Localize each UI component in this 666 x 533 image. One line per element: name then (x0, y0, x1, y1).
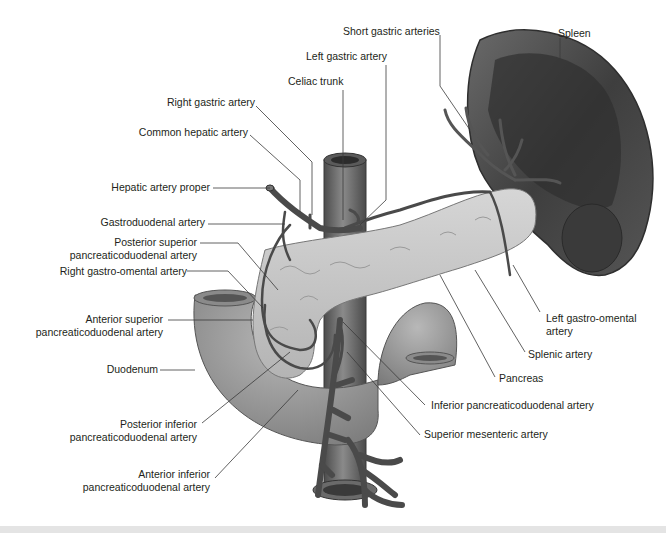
label-duodenum: Duodenum (107, 363, 158, 376)
label-posterior-inferior-pd-line2: pancreaticoduodenal artery (70, 431, 197, 444)
label-right-gastric-artery: Right gastric artery (167, 96, 255, 109)
label-hepatic-artery-proper: Hepatic artery proper (111, 181, 210, 194)
label-short-gastric-arteries: Short gastric arteries (343, 25, 440, 38)
label-anterior-superior-pd-line1: Anterior superior (85, 313, 163, 326)
label-celiac-trunk: Celiac trunk (288, 75, 343, 88)
label-left-gastro-omental-line2: artery (546, 325, 573, 338)
label-left-gastric-artery: Left gastric artery (306, 50, 387, 63)
label-common-hepatic-artery: Common hepatic artery (139, 126, 248, 139)
label-left-gastro-omental-line1: Left gastro-omental (546, 312, 636, 325)
label-pancreas: Pancreas (499, 372, 543, 385)
label-right-gastro-omental-artery: Right gastro-omental artery (60, 265, 187, 278)
label-spleen: Spleen (558, 27, 591, 40)
label-superior-mesenteric-artery: Superior mesenteric artery (424, 428, 548, 441)
label-posterior-inferior-pd-line1: Posterior inferior (120, 418, 197, 431)
label-anterior-superior-pd-line2: pancreaticoduodenal artery (36, 326, 163, 339)
label-gastroduodenal-artery: Gastroduodenal artery (101, 216, 205, 229)
label-posterior-superior-pd-line2: pancreaticoduodenal artery (70, 249, 197, 262)
label-anterior-inferior-pd-line1: Anterior inferior (138, 468, 210, 481)
label-splenic-artery: Splenic artery (528, 348, 592, 361)
label-posterior-superior-pd-line1: Posterior superior (114, 236, 197, 249)
label-inferior-pancreaticoduodenal-artery: Inferior pancreaticoduodenal artery (431, 399, 594, 412)
bottom-strip (0, 526, 666, 533)
label-anterior-inferior-pd-line2: pancreaticoduodenal artery (83, 481, 210, 494)
